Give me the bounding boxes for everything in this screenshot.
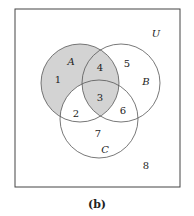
universe-label: U: [152, 28, 161, 39]
region-4: 4: [97, 62, 103, 73]
set-b-label: B: [141, 76, 149, 87]
region-5: 5: [124, 58, 130, 69]
region-2: 2: [73, 108, 79, 119]
region-1: 1: [55, 74, 61, 85]
region-6: 6: [120, 105, 126, 116]
set-c-label: C: [101, 144, 109, 155]
venn-diagram: U A B C 1 2 3 4 5 6 7 8: [0, 0, 194, 216]
set-a-label: A: [66, 56, 74, 67]
region-7: 7: [95, 128, 101, 139]
region-3: 3: [97, 92, 103, 103]
figure-caption: (b): [0, 198, 194, 211]
region-8: 8: [143, 160, 149, 171]
